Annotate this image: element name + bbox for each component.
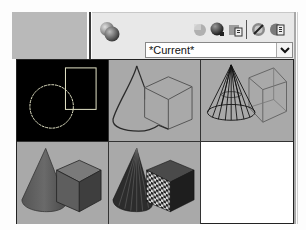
visual-styles-gallery	[16, 59, 294, 224]
visual-style-conceptual[interactable]	[17, 142, 109, 224]
visual-style-3d-hidden[interactable]	[109, 60, 201, 142]
material-spheres-icon	[97, 20, 123, 44]
delete-visual-style-icon[interactable]	[251, 22, 266, 37]
realistic-thumbnail	[109, 142, 200, 224]
dropdown-value: *Current*	[146, 44, 276, 56]
visual-style-3d-wireframe[interactable]	[201, 60, 293, 142]
visual-style-dropdown[interactable]: *Current*	[145, 42, 293, 58]
create-new-visual-style-icon[interactable]	[192, 22, 207, 37]
3d-hidden-thumbnail	[109, 60, 200, 141]
panel-border	[297, 12, 298, 224]
visual-style-realistic[interactable]	[109, 142, 201, 224]
export-to-tool-palette-icon[interactable]	[228, 22, 243, 37]
panel-scrollbar-edge[interactable]	[294, 12, 296, 224]
visual-style-manager-icon[interactable]	[270, 22, 285, 37]
chevron-down-icon[interactable]	[276, 43, 292, 57]
toolbar-separator	[246, 20, 247, 39]
visual-style-2d-wireframe[interactable]	[17, 60, 109, 142]
panel-splitter[interactable]	[89, 12, 91, 59]
apply-to-viewport-icon[interactable]	[210, 22, 225, 37]
3d-wireframe-thumbnail	[201, 60, 293, 141]
conceptual-thumbnail	[17, 142, 108, 224]
adjacent-panel-area	[12, 12, 87, 59]
2d-wireframe-thumbnail	[17, 60, 108, 141]
